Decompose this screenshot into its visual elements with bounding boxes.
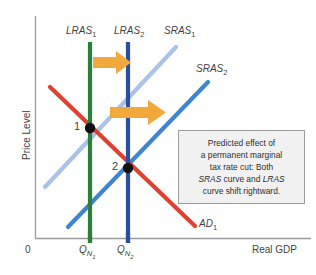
lras-shift-arrow [93, 51, 131, 74]
ad1-label: AD1 [199, 219, 217, 232]
x-axis-label: Real GDP [252, 245, 297, 255]
callout-line-4-lras: LRAS [263, 174, 285, 184]
x-tick-label-qn1: QN1 [79, 245, 96, 260]
callout-box: Predicted effect of a permanent marginal… [178, 130, 305, 204]
callout-line-4-mid: curve and [221, 174, 262, 184]
as-ad-diagram: LRAS1 LRAS2 SRAS1 SRAS2 AD1 1 2 Price Le… [0, 0, 316, 275]
sras2-label: SRAS2 [196, 64, 227, 77]
lras2-label: LRAS2 [114, 26, 144, 39]
callout-line-1: Predicted effect of [208, 138, 275, 148]
callout-line-3: tax rate cut: Both [210, 162, 273, 172]
sras1-label: SRAS1 [164, 26, 195, 39]
callout-line-5: curve shift rightward. [203, 186, 280, 196]
x-tick-label-qn2: QN2 [117, 245, 134, 260]
origin-label: 0 [25, 245, 31, 255]
callout-line-2: a permanent marginal [201, 150, 282, 160]
callout-line-4-sras: SRAS [198, 174, 221, 184]
equilibrium-point-1 [85, 123, 95, 133]
equilibrium-label-2: 2 [112, 161, 118, 172]
sras-shift-arrow [110, 100, 166, 125]
equilibrium-point-2 [123, 163, 133, 173]
equilibrium-label-1: 1 [74, 121, 80, 132]
lras1-label: LRAS1 [66, 26, 96, 39]
y-axis-label: Price Level [22, 111, 32, 160]
callout-text: Predicted effect of a permanent marginal… [193, 137, 289, 198]
